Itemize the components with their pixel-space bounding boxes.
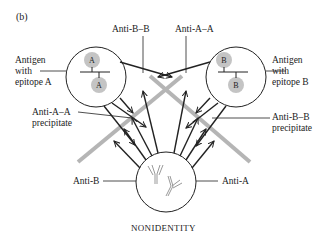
antigen-a-label: Antigen with epitope A [15,55,52,88]
antibody-well [136,152,196,212]
anti-a-label: Anti-A [222,176,249,187]
svg-text:B: B [221,56,226,65]
caption: NONIDENTITY [131,223,196,234]
anti-b-b-precipitate-label: Anti-B–B precipitate [272,112,312,134]
antigen-a-well: A A [66,47,126,107]
anti-a-a-precipitate-label: Anti-A–A precipitate [32,107,72,129]
anti-a-a-label: Anti-A–A [175,24,214,35]
anti-b-label: Anti-B [73,176,99,187]
svg-text:A: A [89,56,95,65]
svg-text:A: A [96,81,102,90]
antigen-b-well: B B [206,47,266,107]
panel-label: (b) [16,11,28,22]
svg-text:B: B [233,81,238,90]
anti-b-b-label: Anti-B–B [112,24,149,35]
antigen-b-label: Antigen with epitope B [272,55,309,88]
